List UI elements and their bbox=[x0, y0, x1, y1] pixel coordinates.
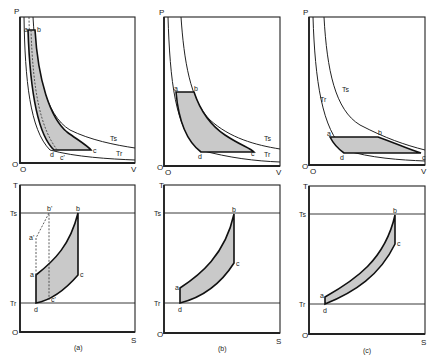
point-c: c bbox=[397, 240, 401, 247]
point-a: a bbox=[30, 271, 34, 278]
cycle-area bbox=[28, 30, 91, 150]
point-d: d bbox=[198, 153, 202, 160]
t-axis-label: T bbox=[159, 181, 164, 190]
cycle-area bbox=[325, 215, 395, 304]
point-d: d bbox=[340, 154, 344, 161]
isotherm-tr-label: Tr bbox=[264, 151, 271, 158]
point-c: c bbox=[422, 154, 426, 161]
origin-label: O bbox=[302, 331, 308, 340]
point-a: a bbox=[175, 284, 179, 291]
point-d: d bbox=[178, 306, 182, 313]
origin-label-x: O bbox=[165, 168, 171, 177]
panel-b-pv-diagram: P V O O a b c d Ts Tr bbox=[157, 8, 282, 177]
point-c: c bbox=[80, 271, 84, 278]
panel-c-ts-diagram: T S O Ts Tr a b c d (c) bbox=[299, 182, 426, 355]
point-d: d bbox=[50, 151, 54, 158]
point-b: b bbox=[378, 129, 382, 136]
isotherm-ts-curve bbox=[324, 17, 425, 150]
point-c-prime: c' bbox=[60, 154, 65, 161]
origin-label-x: O bbox=[20, 165, 26, 174]
point-a: a bbox=[24, 26, 28, 33]
isotherm-tr-label: Tr bbox=[320, 96, 327, 103]
point-c: c bbox=[251, 150, 255, 157]
point-b: b bbox=[37, 26, 41, 33]
point-d: d bbox=[323, 307, 327, 314]
ts-level-label: Ts bbox=[154, 210, 162, 217]
s-axis-label: S bbox=[131, 336, 136, 345]
panel-c-pv-diagram: P V O O a b c d Ts Tr bbox=[302, 8, 427, 176]
point-b: b bbox=[393, 207, 397, 214]
tr-level-label: Tr bbox=[154, 300, 161, 307]
caption-c: (c) bbox=[363, 347, 371, 355]
origin-label: O bbox=[12, 160, 18, 169]
isotherm-ts-label: Ts bbox=[342, 86, 350, 93]
tr-level-label: Tr bbox=[299, 301, 306, 308]
t-axis-label: T bbox=[13, 181, 18, 190]
point-c: c bbox=[93, 147, 97, 154]
point-c: c bbox=[236, 260, 240, 267]
ts-level-label: Ts bbox=[299, 211, 307, 218]
panel-a-pv-diagram: P V O O a b c d c' Ts Tr bbox=[12, 7, 137, 174]
isotherm-ts-label: Ts bbox=[264, 135, 272, 142]
point-d: d bbox=[34, 306, 38, 313]
point-a-prime: a' bbox=[29, 234, 34, 241]
v-axis-label: V bbox=[421, 167, 427, 176]
point-c-prime: c' bbox=[51, 296, 56, 303]
cycle-area bbox=[176, 92, 254, 152]
cycle-diagram-figure: P V O O a b c d c' Ts Tr T S O Ts Tr a b… bbox=[0, 0, 439, 361]
t-axis-label: T bbox=[303, 182, 308, 191]
point-a: a bbox=[320, 292, 324, 299]
origin-label: O bbox=[12, 328, 18, 337]
p-axis-label: P bbox=[14, 7, 19, 16]
point-b-prime: b' bbox=[47, 205, 52, 212]
p-axis-label: P bbox=[159, 8, 164, 17]
isotherm-tr-label: Tr bbox=[116, 150, 123, 157]
isotherm-ts-label: Ts bbox=[110, 135, 118, 142]
p-axis-label: P bbox=[303, 8, 308, 17]
s-axis-label: S bbox=[276, 337, 281, 346]
point-b: b bbox=[76, 205, 80, 212]
point-b: b bbox=[232, 206, 236, 213]
caption-a: (a) bbox=[74, 344, 83, 352]
panel-b-ts-diagram: T S O Ts Tr a b c d (b) bbox=[154, 181, 281, 353]
tr-level-label: Tr bbox=[10, 300, 17, 307]
point-b: b bbox=[194, 85, 198, 92]
s-axis-label: S bbox=[421, 338, 426, 347]
v-axis-label: V bbox=[131, 165, 137, 174]
point-a: a bbox=[327, 130, 331, 137]
point-a: a bbox=[174, 85, 178, 92]
origin-label: O bbox=[157, 330, 163, 339]
cycle-area bbox=[180, 214, 234, 303]
panel-a-ts-diagram: T S O Ts Tr a b c d a' b' c' (a) bbox=[10, 181, 136, 352]
v-axis-label: V bbox=[276, 168, 282, 177]
origin-label-x: O bbox=[310, 167, 316, 176]
ts-level-label: Ts bbox=[10, 210, 18, 217]
origin-label: O bbox=[302, 162, 308, 171]
origin-label: O bbox=[157, 163, 163, 172]
caption-b: (b) bbox=[218, 345, 227, 353]
